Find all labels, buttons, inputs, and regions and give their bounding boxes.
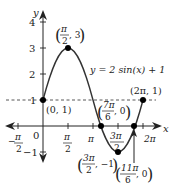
- svg-text:6: 6: [105, 112, 111, 122]
- sine-graph: x y 4 3 2 1 −1 0 − π 2 π 2 π 3π: [0, 0, 183, 186]
- svg-text:, 0: , 0: [136, 169, 148, 179]
- svg-text:, 0: , 0: [114, 106, 126, 116]
- svg-text:2: 2: [86, 165, 92, 175]
- y-tick-3: 3: [29, 43, 35, 54]
- point-7pi6-0: [98, 123, 104, 129]
- x-tick-pi-over-2: π 2: [63, 132, 72, 154]
- svg-text:π: π: [63, 132, 71, 142]
- y-tick-1: 1: [30, 95, 36, 106]
- x-tick-pi: π: [87, 134, 95, 144]
- y-tick-2: 2: [29, 69, 35, 80]
- point-label-3pi2-neg1: ( 3π 2 , −1 ): [77, 153, 118, 175]
- svg-text:): ): [147, 165, 153, 184]
- x-tick-2pi: 2π: [143, 134, 157, 144]
- svg-text:2: 2: [65, 144, 71, 154]
- svg-text:): ): [79, 26, 85, 45]
- svg-text:): ): [125, 103, 131, 122]
- point-2pi-1: [140, 97, 146, 103]
- point-3pi2-neg1: [115, 149, 121, 155]
- point-11pi6-0: [131, 123, 137, 129]
- point-label-11pi6-0: ( 11π 6 , 0 ): [115, 163, 153, 185]
- point-label-7pi6-0: ( 7π 6 , 0 ): [97, 100, 131, 122]
- y-tick-4: 4: [29, 17, 35, 28]
- origin-label: 0: [33, 130, 39, 141]
- equation-label: y = 2 sin(x) + 1: [89, 64, 165, 75]
- y-tick-neg1: −1: [23, 147, 38, 158]
- svg-text:3π: 3π: [110, 131, 123, 141]
- x-tick-neg-pi-over-2: − π 2: [8, 132, 23, 154]
- x-axis-label: x: [163, 123, 169, 134]
- svg-text:3π: 3π: [83, 153, 96, 163]
- svg-text:π: π: [14, 132, 22, 142]
- point-label-pi2-3: ( π 2 , 3 ): [55, 24, 85, 46]
- point-0-1: [40, 97, 46, 103]
- svg-text:2: 2: [16, 144, 22, 154]
- svg-text:2: 2: [62, 36, 68, 46]
- svg-text:6: 6: [125, 175, 131, 185]
- svg-text:π: π: [60, 24, 68, 34]
- point-label-2pi-1: (2π, 1): [130, 85, 162, 96]
- point-label-0-1: (0, 1): [46, 104, 72, 115]
